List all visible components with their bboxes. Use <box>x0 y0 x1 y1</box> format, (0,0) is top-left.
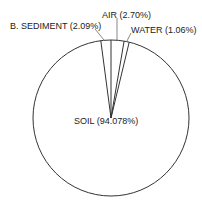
pie-chart: B. SEDIMENT (2.09%) AIR (2.70%) WATER (1… <box>0 0 202 215</box>
label-soil: SOIL (94.078%) <box>74 116 138 126</box>
label-water: WATER (1.06%) <box>131 25 197 35</box>
label-bsediment: B. SEDIMENT (2.09%) <box>10 21 101 31</box>
label-air: AIR (2.70%) <box>102 10 151 20</box>
